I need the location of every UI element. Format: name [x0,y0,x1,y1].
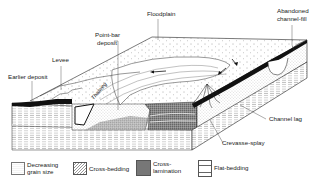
legend-label: Cross- lamination [153,161,181,174]
legend-item-decreasing-grain-size: Decreasing grain size [11,162,58,175]
legend-label: Flat-bedding [214,165,248,172]
label-abandoned-line1: Abandoned [277,7,309,14]
label-channel-lag: Channel lag [269,115,303,122]
legend: Decreasing grain size Cross-bedding Cros… [0,160,327,190]
legend-item-cross-lamination: Cross- lamination [136,160,181,176]
label-point-bar-line1: Point-bar [95,31,120,38]
legend-item-flat-bedding: Flat-bedding [198,160,248,177]
cross-lamination-section [145,102,197,130]
label-abandoned-line2: channel-fill [277,15,307,22]
cross-bedding-swatch [73,162,87,175]
decreasing-grain-size-swatch [11,162,25,175]
point-bar-section [72,104,150,130]
flat-bedding-swatch [198,160,212,177]
label-earlier-deposit: Earlier deposit [8,73,48,80]
label-levee: Levee [52,56,69,63]
label-floodplain: Floodplain [147,10,176,17]
legend-item-cross-bedding: Cross-bedding [73,162,129,175]
label-crevasse-splay: Crevasse-splay [222,139,266,146]
legend-label: Cross-bedding [89,166,129,173]
label-point-bar-line2: deposit [97,39,117,46]
legend-label: Decreasing grain size [27,162,58,175]
cross-lamination-swatch [136,160,151,176]
